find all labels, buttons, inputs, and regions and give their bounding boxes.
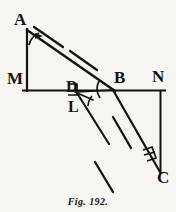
label-m: M — [7, 70, 23, 87]
label-a: A — [14, 11, 26, 28]
label-c: C — [157, 169, 169, 186]
label-l: L — [68, 99, 79, 115]
geometry-diagram — [0, 0, 176, 212]
label-n: N — [152, 68, 164, 85]
dashed-ray-parallel-ab — [34, 27, 97, 70]
right-angle-mark-c — [143, 147, 156, 161]
figure-container: A M D L B N C Fig. 192. — [0, 0, 176, 212]
label-b: B — [114, 69, 125, 86]
figure-caption: Fig. 192. — [0, 196, 176, 207]
dashed-ray-parallel-bc — [95, 117, 131, 192]
label-d: D — [66, 79, 78, 95]
